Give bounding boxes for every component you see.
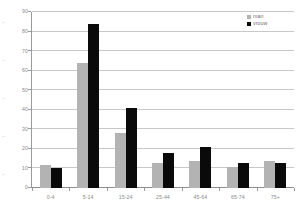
y-tick-label-30: 30 <box>2 127 28 132</box>
y-tick-label-80: 80 <box>2 29 28 34</box>
y-tick-label-10: 10 <box>2 166 28 171</box>
bar-group-45-64 <box>182 12 219 188</box>
x-tick-mark-45-64 <box>182 188 183 191</box>
bar-man-0-4[interactable] <box>40 165 51 188</box>
x-tick-label-5-14: 5-14 <box>69 195 106 200</box>
bar-chart: 0102030405060708090 0-45-1415-2425-4445-… <box>0 0 302 217</box>
bar-vrouw-65-74[interactable] <box>238 163 249 188</box>
bar-group-5-14 <box>69 12 106 188</box>
x-axis: 0-45-1415-2425-4445-6465-7475+ <box>32 188 294 210</box>
bar-vrouw-25-44[interactable] <box>163 153 174 188</box>
x-tick-mark-5-14 <box>69 188 70 191</box>
x-category-0-4: 0-4 <box>32 188 69 210</box>
y-tick-label-90: 90 <box>2 9 28 14</box>
x-tick-label-15-24: 15-24 <box>107 195 144 200</box>
x-tick-label-0-4: 0-4 <box>32 195 69 200</box>
bar-man-15-24[interactable] <box>115 133 126 188</box>
y-tick-label-0: 0 <box>2 185 28 190</box>
bar-group-25-44 <box>144 12 181 188</box>
bar-man-45-64[interactable] <box>189 161 200 188</box>
y-tick-label-70: 70 <box>2 49 28 54</box>
x-tick-label-25-44: 25-44 <box>144 195 181 200</box>
y-tick-label-60: 60 <box>2 68 28 73</box>
legend-label-vrouw: vrouw <box>253 21 267 26</box>
y-tick-label-20: 20 <box>2 146 28 151</box>
x-category-75+: 75+ <box>257 188 294 210</box>
x-category-45-64: 45-64 <box>182 188 219 210</box>
bar-man-5-14[interactable] <box>77 63 88 188</box>
legend-label-man: man <box>253 14 263 19</box>
x-tick-label-75+: 75+ <box>257 195 294 200</box>
bar-vrouw-0-4[interactable] <box>51 168 62 188</box>
chart-legend: manvrouw <box>247 14 267 26</box>
x-category-65-74: 65-74 <box>219 188 256 210</box>
x-tick-label-45-64: 45-64 <box>182 195 219 200</box>
legend-entry-vrouw[interactable]: vrouw <box>247 21 267 26</box>
y-tick-label-40: 40 <box>2 107 28 112</box>
bar-group-75+ <box>257 12 294 188</box>
x-tick-mark-75+ <box>257 188 258 191</box>
bar-group-65-74 <box>219 12 256 188</box>
bar-man-65-74[interactable] <box>227 167 238 189</box>
legend-entry-man[interactable]: man <box>247 14 267 19</box>
bar-vrouw-5-14[interactable] <box>88 24 99 188</box>
bar-vrouw-15-24[interactable] <box>126 108 137 188</box>
y-axis: 0102030405060708090 <box>0 12 28 188</box>
bar-man-25-44[interactable] <box>152 163 163 188</box>
x-axis-end-tick <box>294 188 295 191</box>
x-category-15-24: 15-24 <box>107 188 144 210</box>
x-tick-mark-15-24 <box>107 188 108 191</box>
x-tick-mark-65-74 <box>219 188 220 191</box>
legend-swatch-man <box>247 15 251 19</box>
x-category-5-14: 5-14 <box>69 188 106 210</box>
x-tick-mark-0-4 <box>32 188 33 191</box>
bar-group-0-4 <box>32 12 69 188</box>
bars-layer <box>32 12 294 188</box>
bar-vrouw-45-64[interactable] <box>200 147 211 188</box>
bar-group-15-24 <box>107 12 144 188</box>
legend-swatch-vrouw <box>247 22 251 26</box>
x-tick-label-65-74: 65-74 <box>219 195 256 200</box>
y-tick-label-50: 50 <box>2 88 28 93</box>
x-tick-mark-25-44 <box>144 188 145 191</box>
bar-man-75+[interactable] <box>264 161 275 188</box>
x-category-25-44: 25-44 <box>144 188 181 210</box>
bar-vrouw-75+[interactable] <box>275 163 286 188</box>
